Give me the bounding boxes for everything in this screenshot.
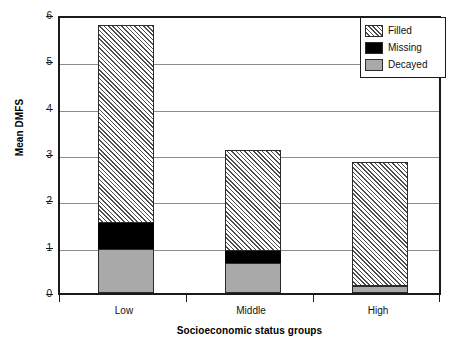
y-tick-mark [46,16,53,17]
x-tick-mark [186,295,187,302]
x-tick-label-high: High [333,305,423,317]
y-axis-ticks: 6 5 4 3 2 1 0 [0,16,52,295]
bar-segment-filled[interactable] [225,150,281,251]
x-axis-ticks [58,295,441,303]
legend-label-decayed: Decayed [388,59,427,70]
legend-swatch-decayed-icon [365,59,383,71]
bar-segment-decayed[interactable] [98,249,154,294]
bar-segment-filled[interactable] [98,25,154,223]
y-tick-mark [46,248,53,249]
legend-label-missing: Missing [388,42,422,53]
x-tick-mark [59,295,60,302]
bar-segment-missing[interactable] [98,223,154,249]
bar-segment-decayed[interactable] [225,263,281,293]
chart-legend: Filled Missing Decayed [360,17,446,78]
chart-container: Mean DMFS 6 5 4 3 2 1 0 [0,0,459,348]
y-tick-mark [46,201,53,202]
x-tick-label-low: Low [79,305,169,317]
y-tick-mark [46,62,53,63]
bar-segment-filled[interactable] [352,162,408,286]
x-tick-label-middle: Middle [206,305,296,317]
legend-label-filled: Filled [388,25,412,36]
y-tick-mark [46,155,53,156]
legend-swatch-missing-icon [365,42,383,54]
x-axis-title: Socioeconomic status groups [58,325,441,336]
legend-item-filled[interactable]: Filled [365,22,441,39]
x-axis-tick-labels: Low Middle High [58,305,441,319]
legend-swatch-filled-icon [365,25,383,37]
x-tick-mark [313,295,314,302]
bar-segment-missing[interactable] [225,251,281,263]
legend-item-missing[interactable]: Missing [365,39,441,56]
y-tick-mark [46,294,53,295]
x-tick-mark [439,295,440,302]
y-tick-mark [46,109,53,110]
bar-segment-decayed[interactable] [352,286,408,293]
legend-item-decayed[interactable]: Decayed [365,56,441,73]
